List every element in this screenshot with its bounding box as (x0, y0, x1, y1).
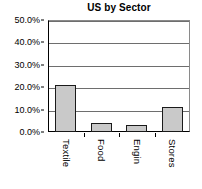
x-tick-label: Textile (60, 139, 71, 167)
y-tick-label: 20.0% (14, 82, 40, 92)
x-axis: TextileFoodEnginStores (48, 137, 190, 189)
y-tick-mark (41, 132, 44, 133)
x-tick-label: Engin (131, 139, 142, 164)
y-tick-label: 30.0% (14, 60, 40, 70)
bar (91, 123, 112, 132)
bar-chart: US by Sector 0.0%10.0%20.0%30.0%40.0%50.… (0, 0, 202, 189)
y-axis: 0.0%10.0%20.0%30.0%40.0%50.0% (0, 20, 44, 132)
y-tick-label: 50.0% (14, 15, 40, 25)
x-tick-label: Food (96, 139, 107, 161)
bar (126, 125, 147, 132)
y-tick-mark (41, 20, 44, 21)
x-label-slot: Stores (155, 137, 191, 189)
bar-slot (84, 20, 120, 132)
y-tick-mark (41, 109, 44, 110)
y-tick-mark (41, 42, 44, 43)
x-label-slot: Food (84, 137, 120, 189)
chart-title: US by Sector (48, 2, 190, 13)
y-tick-label: 10.0% (14, 105, 40, 115)
x-label-slot: Engin (119, 137, 155, 189)
y-tick-mark (41, 87, 44, 88)
x-tick-label: Stores (167, 139, 178, 168)
y-tick-mark (41, 64, 44, 65)
bar (162, 107, 183, 132)
bar-slot (155, 20, 191, 132)
x-label-slot: Textile (48, 137, 84, 189)
bars-layer (48, 20, 190, 132)
y-tick-label: 40.0% (14, 37, 40, 47)
y-tick-label: 0.0% (19, 127, 40, 137)
bar-slot (119, 20, 155, 132)
bar (55, 85, 76, 132)
bar-slot (48, 20, 84, 132)
